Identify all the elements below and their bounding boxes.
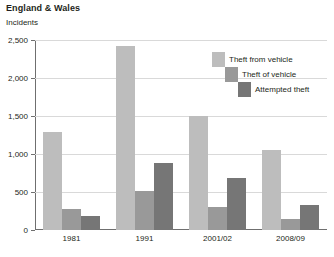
page-title: England & Wales [6, 3, 80, 13]
bar [281, 219, 300, 230]
bar [262, 150, 281, 230]
legend-swatch-icon [238, 82, 251, 97]
bar [81, 216, 100, 230]
legend-swatch-icon [225, 67, 238, 82]
bar [300, 205, 319, 230]
y-axis-tick-label: 2,000 [8, 74, 28, 83]
x-axis-tick-label: 1991 [108, 234, 181, 243]
bar [189, 116, 208, 230]
x-axis-tick-label: 1981 [35, 234, 108, 243]
legend-item-theft-from-vehicle: Theft from vehicle [212, 52, 293, 67]
bar [43, 132, 62, 230]
bar [208, 207, 227, 230]
bar-group [108, 40, 181, 230]
bar [227, 178, 246, 230]
legend-item-theft-of-vehicle: Theft of vehicle [225, 67, 296, 82]
y-axis-tick-label: 2,500 [8, 36, 28, 45]
bar [116, 46, 135, 230]
bar [62, 209, 81, 230]
x-axis-tick-label: 2001/02 [181, 234, 254, 243]
legend-label: Attempted theft [255, 85, 309, 94]
bar [154, 163, 173, 230]
chart-container: England & Wales Incidents 05001,0001,500… [0, 0, 334, 257]
y-axis-tick-label: 1,000 [8, 150, 28, 159]
legend-swatch-icon [212, 52, 225, 67]
x-axis-tick-label: 2008/09 [254, 234, 327, 243]
axis-unit-label: Incidents [6, 18, 38, 27]
legend: Theft from vehicle Theft of vehicle Atte… [212, 52, 332, 98]
y-axis-tick [31, 230, 35, 231]
y-axis-tick-label: 500 [15, 188, 28, 197]
bar [135, 191, 154, 230]
legend-label: Theft of vehicle [242, 70, 296, 79]
bar-group [35, 40, 108, 230]
y-axis-tick-label: 0 [24, 226, 28, 235]
y-axis-tick-label: 1,500 [8, 112, 28, 121]
legend-item-attempted-theft: Attempted theft [238, 82, 309, 97]
legend-label: Theft from vehicle [229, 55, 293, 64]
